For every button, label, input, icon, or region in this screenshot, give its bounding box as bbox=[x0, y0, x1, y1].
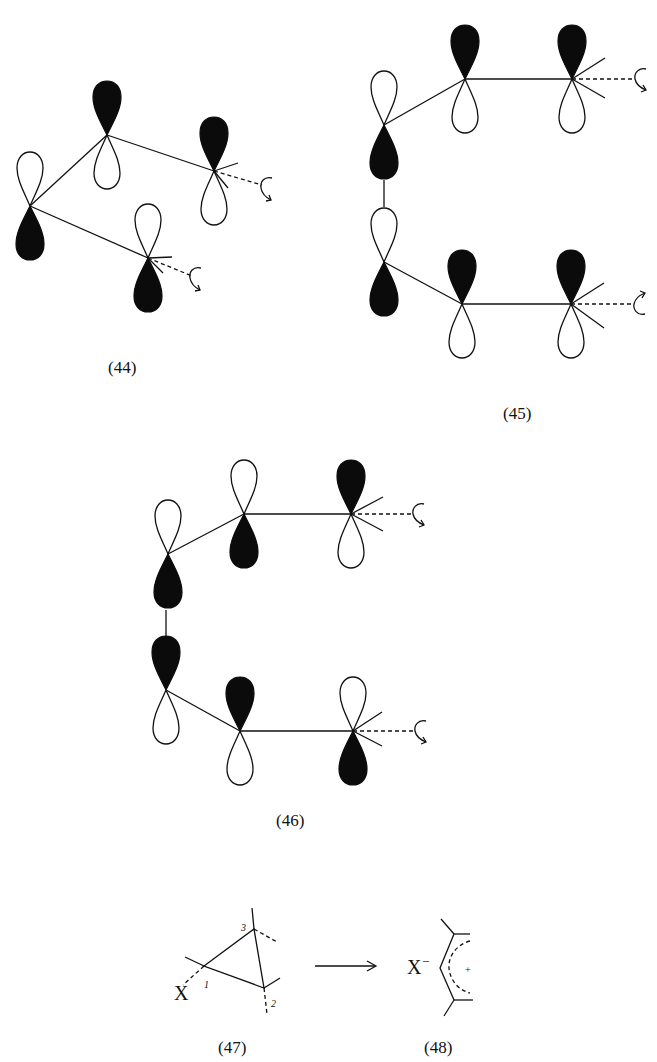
structure-47: X 1 2 3 bbox=[174, 908, 280, 1014]
rotation-arrow-icon bbox=[261, 178, 272, 201]
atom-number-1: 1 bbox=[204, 979, 209, 990]
rotation-arrow-icon bbox=[634, 291, 645, 314]
structure-45 bbox=[370, 25, 646, 358]
leaving-group-x: X bbox=[174, 982, 189, 1004]
label-47: (47) bbox=[218, 1038, 246, 1058]
anion-x: X bbox=[407, 956, 422, 978]
cation-charge: + bbox=[465, 964, 471, 975]
structure-48: X − + bbox=[407, 919, 473, 1016]
rotation-arrow-icon bbox=[415, 721, 426, 744]
label-45: (45) bbox=[503, 404, 531, 424]
label-46: (46) bbox=[276, 811, 304, 831]
atom-number-2: 2 bbox=[271, 998, 276, 1009]
p-orbital-lobe-filled bbox=[16, 206, 44, 260]
rotation-arrow-icon bbox=[413, 504, 424, 527]
label-44: (44) bbox=[108, 358, 136, 378]
anion-charge: − bbox=[422, 954, 429, 969]
rotation-arrow-icon bbox=[190, 268, 201, 291]
structure-46 bbox=[152, 460, 426, 785]
label-48: (48) bbox=[424, 1038, 452, 1058]
reaction-arrow-icon bbox=[315, 961, 376, 971]
orbital-diagram-figure: X 1 2 3 X − + bbox=[0, 0, 657, 1062]
atom-number-3: 3 bbox=[240, 922, 246, 933]
rotation-arrow-icon bbox=[635, 69, 646, 92]
structure-44 bbox=[16, 81, 272, 312]
